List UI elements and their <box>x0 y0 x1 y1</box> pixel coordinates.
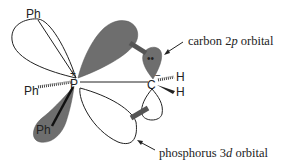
filled-lobe-p-upper <box>78 21 138 78</box>
overlap-hatch-upper <box>130 43 146 53</box>
atom-ph-top: Ph <box>26 7 41 21</box>
atom-ph-left: Ph <box>24 84 39 98</box>
phosphorus-ylide-orbital-diagram: •• Ph Ph Ph P + C − H H carbon 2p orbita… <box>0 0 282 167</box>
arrow-phosphorus-orbital-head <box>137 140 143 145</box>
arrow-phosphorus-orbital <box>140 142 155 150</box>
phosphorus-3d-lobe <box>80 88 137 144</box>
label-phosphorus-3d-orbital: phosphorus 3d orbital <box>159 146 269 160</box>
bond-c-h-wedge <box>157 85 175 94</box>
atom-h-top: H <box>176 70 185 84</box>
bond-p-ph-left-hashed <box>38 82 72 87</box>
label-carbon-2p-orbital: carbon 2p orbital <box>188 34 274 48</box>
atom-h-bottom: H <box>176 85 185 99</box>
carbon-lower-lobe <box>142 89 163 120</box>
charge-p: + <box>70 68 76 79</box>
atom-ph-bottom: Ph <box>36 123 51 137</box>
open-lobe-upper-left <box>12 19 76 78</box>
lone-pair-dots: •• <box>147 53 155 64</box>
arrow-carbon-orbital-head <box>164 49 170 55</box>
atom-p: P <box>70 77 78 91</box>
charge-c: − <box>155 70 161 81</box>
